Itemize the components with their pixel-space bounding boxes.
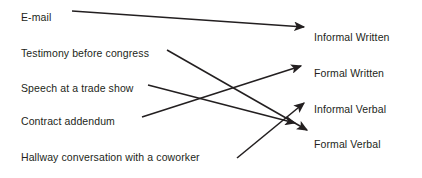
right-label-formal-written[interactable]: Formal Written	[314, 67, 384, 79]
connector-hallway-to-informal-verbal[interactable]	[237, 103, 304, 158]
left-label-hallway[interactable]: Hallway conversation with a coworker	[21, 151, 200, 163]
connector-contract-to-formal-written[interactable]	[142, 66, 301, 117]
left-label-speech[interactable]: Speech at a trade show	[21, 82, 134, 94]
connector-email-to-informal-written[interactable]	[72, 11, 304, 27]
matching-diagram: E-mailTestimony before congressSpeech at…	[0, 0, 422, 178]
left-label-testimony[interactable]: Testimony before congress	[21, 47, 149, 59]
connector-testimony-to-formal-verbal[interactable]	[167, 50, 307, 130]
right-label-informal-written[interactable]: Informal Written	[314, 31, 390, 43]
right-label-formal-verbal[interactable]: Formal Verbal	[314, 138, 381, 150]
right-label-informal-verbal[interactable]: Informal Verbal	[314, 103, 386, 115]
left-label-email[interactable]: E-mail	[21, 11, 51, 23]
connector-speech-to-formal-verbal[interactable]	[148, 85, 295, 123]
left-label-contract[interactable]: Contract addendum	[21, 115, 115, 127]
